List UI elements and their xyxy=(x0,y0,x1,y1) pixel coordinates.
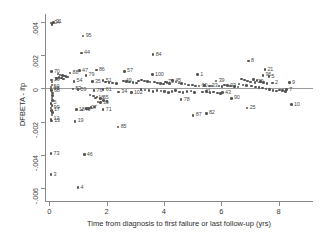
data-point xyxy=(272,89,275,92)
data-point xyxy=(50,152,53,155)
x-tick-label: 8 xyxy=(264,207,294,216)
data-point-label: 49 xyxy=(126,78,132,83)
data-point-label: 31 xyxy=(56,19,62,24)
data-point xyxy=(162,83,165,86)
y-tick-mark xyxy=(41,188,45,189)
data-point xyxy=(102,108,105,111)
x-axis-line xyxy=(45,201,313,202)
data-point xyxy=(66,76,69,79)
data-point-label: 61 xyxy=(106,87,112,92)
data-point xyxy=(243,79,246,82)
data-point xyxy=(285,88,288,91)
data-point-label: 87 xyxy=(196,112,202,117)
y-tick-mark xyxy=(41,88,45,89)
data-point xyxy=(117,91,120,94)
data-point xyxy=(178,91,181,94)
data-point xyxy=(198,85,201,88)
data-point-label: 4 xyxy=(81,185,84,190)
data-point-label: 47 xyxy=(82,68,88,73)
data-point xyxy=(91,80,94,83)
data-point xyxy=(52,21,55,24)
data-point-label: 10 xyxy=(294,102,300,107)
data-point-label: 44 xyxy=(84,50,90,55)
data-point-label: 102 xyxy=(134,90,143,95)
data-point xyxy=(192,114,195,117)
data-point-label: 88 xyxy=(73,70,79,75)
data-point-label: 82 xyxy=(209,110,215,115)
data-point xyxy=(149,81,152,84)
data-point xyxy=(156,89,159,92)
y-tick-mark xyxy=(41,22,45,23)
data-point xyxy=(180,98,183,101)
data-point-label: 41 xyxy=(205,89,211,94)
data-point xyxy=(50,102,53,105)
data-point-label: 3 xyxy=(54,172,57,177)
data-point xyxy=(164,81,167,84)
data-point xyxy=(268,88,271,91)
data-point-label: 25 xyxy=(250,105,256,110)
data-point-label: 43 xyxy=(225,90,231,95)
data-point xyxy=(94,97,97,100)
data-point xyxy=(167,91,170,94)
data-point xyxy=(72,88,75,91)
data-point-label: 8 xyxy=(251,58,254,63)
data-point-label: 2 xyxy=(275,80,278,85)
data-point xyxy=(80,52,83,55)
data-point xyxy=(184,83,187,86)
data-point-label: 57 xyxy=(127,68,133,73)
data-point xyxy=(122,80,125,83)
data-point-label: 93 xyxy=(230,83,236,88)
data-point xyxy=(117,126,120,129)
data-point xyxy=(69,72,72,75)
scatter-plot-surface: .004.0020-.002-.004-.006 02468 343195448… xyxy=(0,0,320,242)
chart-page: .004.0020-.002-.004-.006 02468 343195448… xyxy=(0,0,320,242)
data-point xyxy=(62,78,65,81)
data-point xyxy=(190,90,193,93)
data-point-label: 85 xyxy=(121,124,127,129)
data-point-label: 45 xyxy=(175,78,181,83)
data-point xyxy=(261,87,264,90)
y-tick-label: .002 xyxy=(31,55,41,69)
data-point xyxy=(186,90,189,93)
data-point-label: 29 xyxy=(54,77,60,82)
data-point-label: 54 xyxy=(77,78,83,83)
x-tick-label: 0 xyxy=(34,207,64,216)
data-point-label: 84 xyxy=(156,52,162,57)
data-point xyxy=(78,69,81,72)
data-point xyxy=(262,74,265,77)
data-point xyxy=(268,75,271,78)
data-point xyxy=(182,91,185,94)
data-point xyxy=(152,90,155,93)
data-point xyxy=(99,101,102,104)
data-point-label: 79 xyxy=(89,72,95,77)
y-tick-label: -.004 xyxy=(31,155,41,171)
data-point xyxy=(187,84,190,87)
x-axis-title: Time from diagnosis to first failure or … xyxy=(45,219,313,228)
data-point-label: 1 xyxy=(200,72,203,77)
data-point xyxy=(275,90,278,93)
data-point-label: 19 xyxy=(78,118,84,123)
data-point xyxy=(226,84,229,87)
data-point xyxy=(205,112,208,115)
data-point-label: 13 xyxy=(54,118,60,123)
data-point xyxy=(230,97,233,100)
data-point-label: 100 xyxy=(155,72,164,77)
data-point xyxy=(271,82,274,85)
data-point xyxy=(171,90,174,93)
data-point-label: 33 xyxy=(212,83,218,88)
y-tick-label: -.002 xyxy=(31,122,41,138)
y-axis-title: DFBETA - lfp xyxy=(18,45,27,165)
data-point xyxy=(144,89,147,92)
data-point xyxy=(242,84,245,87)
data-point-label: 39 xyxy=(103,100,109,105)
data-point xyxy=(246,107,249,110)
data-point-label: 73 xyxy=(54,151,60,156)
data-point xyxy=(194,85,197,88)
data-point-label: 70 xyxy=(54,69,60,74)
data-point-label: 7 xyxy=(289,87,292,92)
data-point-label: 86 xyxy=(99,67,105,72)
data-point xyxy=(208,85,211,88)
data-point xyxy=(247,60,250,63)
x-tick-label: 6 xyxy=(206,207,236,216)
data-point xyxy=(85,74,88,77)
